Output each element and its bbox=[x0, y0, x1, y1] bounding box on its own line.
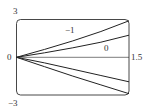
x-max-label: 1.5 bbox=[131, 53, 142, 62]
x-min-label: 0 bbox=[7, 53, 12, 62]
curve-label-0: 0 bbox=[104, 44, 109, 53]
y-max-label: 3 bbox=[13, 7, 18, 16]
curve-label-neg1: −1 bbox=[65, 26, 75, 35]
y-min-label: −3 bbox=[8, 99, 18, 108]
curve-line bbox=[17, 35, 130, 57]
plot-area bbox=[0, 0, 147, 111]
curve-line bbox=[17, 57, 130, 82]
curve-line bbox=[17, 57, 130, 93]
